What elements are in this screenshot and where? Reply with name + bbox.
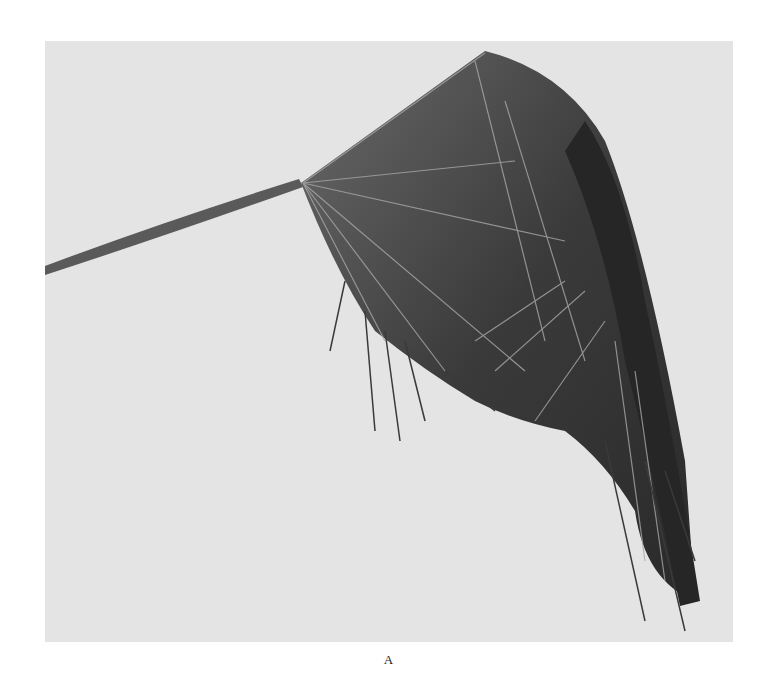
- photo-plate: [45, 41, 733, 642]
- figure-caption: A: [0, 652, 777, 668]
- petiole-stem: [45, 179, 303, 275]
- palm-leaf-illustration: [45, 41, 733, 642]
